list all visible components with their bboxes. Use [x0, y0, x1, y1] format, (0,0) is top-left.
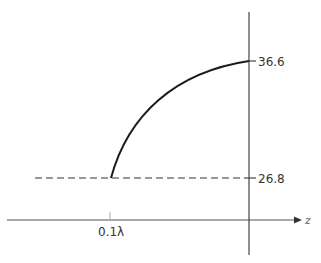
z-axis-arrow-icon: [294, 217, 302, 224]
y-label-36-6: 36.6: [258, 55, 285, 69]
diagram-canvas: z 36.6 26.8 0.1λ: [0, 0, 321, 263]
y-label-26-8: 26.8: [258, 172, 285, 186]
z-axis-label: z: [304, 214, 311, 227]
x-label-0-1-lambda: 0.1λ: [98, 225, 124, 239]
curve: [111, 61, 249, 178]
